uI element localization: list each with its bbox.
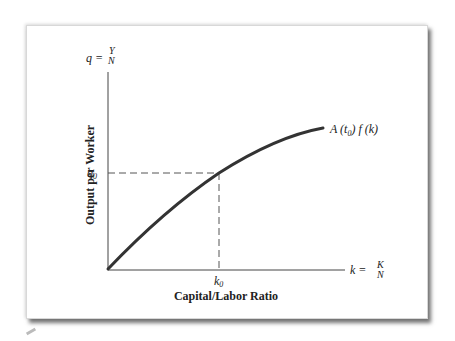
y-axis-title: Output per Worker <box>83 124 97 225</box>
k0-label: k0 <box>214 274 223 289</box>
y-axis-end-label: q = <box>86 51 103 65</box>
production-curve <box>108 128 323 269</box>
x-axis-end-den: N <box>376 269 385 280</box>
curve-label: A (t0) f (k) <box>329 122 378 138</box>
x-axis-end-label: k = <box>350 263 366 277</box>
production-function-chart: A (t0) f (k) q = Y N k = K N q0 k0 Capit… <box>0 0 455 341</box>
y-axis-end-den: N <box>107 55 116 66</box>
x-axis-title: Capital/Labor Ratio <box>174 289 278 303</box>
